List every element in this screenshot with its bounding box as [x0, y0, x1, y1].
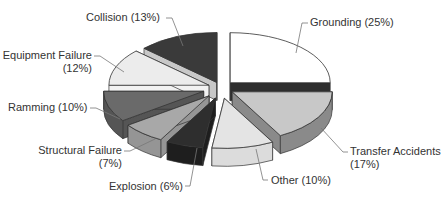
- label-structural-line1: Structural Failure: [38, 144, 122, 157]
- label-explosion: Explosion (6%): [109, 180, 183, 193]
- leader-transfer: [321, 128, 348, 152]
- label-collision: Collision (13%): [86, 11, 160, 24]
- label-equipment-line1: Equipment Failure: [2, 49, 92, 62]
- label-equipment-line2: (12%): [2, 62, 92, 75]
- label-other: Other (10%): [271, 174, 331, 187]
- label-equipment-failure: Equipment Failure (12%): [2, 49, 92, 75]
- label-ramming: Ramming (10%): [8, 101, 87, 114]
- label-transfer-line2: (17%): [350, 158, 441, 171]
- pie-slice-grounding: [230, 33, 330, 101]
- label-structural-failure: Structural Failure (7%): [38, 144, 122, 170]
- label-transfer-line1: Transfer Accidents: [350, 145, 441, 158]
- label-grounding: Grounding (25%): [310, 16, 394, 29]
- label-transfer-accidents: Transfer Accidents (17%): [350, 145, 441, 171]
- label-structural-line2: (7%): [38, 157, 122, 170]
